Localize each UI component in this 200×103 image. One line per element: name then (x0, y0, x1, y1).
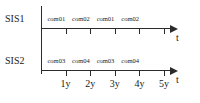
slot-label-sis1-3: com01 (97, 15, 115, 22)
tick-label-5y: 5y (159, 78, 169, 89)
time-axis-sis1 (41, 28, 170, 29)
tick-mark-sis1-5y (164, 29, 165, 34)
slot-label-sis2-2: com04 (72, 57, 90, 64)
axis-name-sis1: t (176, 32, 179, 43)
origin-axis-line (41, 6, 42, 74)
tick-mark-sis2-1y (66, 71, 67, 76)
tick-mark-sis2-3y (115, 71, 116, 76)
tick-label-4y: 4y (134, 78, 144, 89)
tick-mark-sis2-2y (90, 71, 91, 76)
slot-label-sis1-4: com02 (121, 15, 139, 22)
time-axis-sis2 (41, 70, 170, 71)
tick-label-2y: 2y (85, 78, 95, 89)
tick-mark-sis1-1y (66, 29, 67, 34)
tick-mark-sis2-4y (139, 71, 140, 76)
slot-label-sis1-2: com02 (72, 15, 90, 22)
tick-mark-sis1-4y (139, 29, 140, 34)
slot-label-sis2-1: com03 (47, 57, 65, 64)
row-label-sis1: SIS1 (5, 13, 24, 24)
tick-mark-sis1-2y (90, 29, 91, 34)
axis-name-sis2: t (176, 74, 179, 85)
tick-label-1y: 1y (61, 78, 71, 89)
slot-label-sis2-3: com03 (97, 57, 115, 64)
tick-mark-sis1-3y (115, 29, 116, 34)
row-label-sis2: SIS2 (5, 55, 24, 66)
slot-label-sis1-1: com01 (47, 15, 65, 22)
slot-label-sis2-4: com04 (121, 57, 139, 64)
tick-mark-sis2-5y (164, 71, 165, 76)
timeline-diagram: SIS1 SIS2 t t 1y2y3y4y5ycom01com02com01c… (0, 0, 200, 103)
tick-label-3y: 3y (110, 78, 120, 89)
